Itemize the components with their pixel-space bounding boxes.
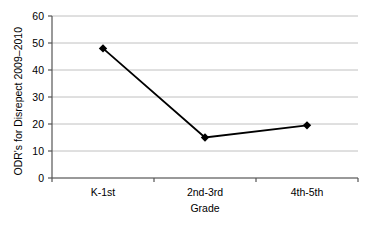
gridlines	[52, 16, 358, 178]
x-tick-label: K-1st	[52, 187, 154, 198]
x-tick-label: 2nd-3rd	[154, 187, 256, 198]
y-tick-label: 10	[4, 146, 44, 157]
y-axis-title: ODR's for Disrepect 2009–2010	[13, 11, 24, 191]
y-tick-label: 40	[4, 65, 44, 76]
x-axis-title: Grade	[52, 203, 358, 214]
y-tick-label: 30	[4, 92, 44, 103]
y-tick-label: 0	[4, 173, 44, 184]
y-tick-label: 60	[4, 11, 44, 22]
x-axis-ticks	[52, 178, 358, 182]
y-tick-label: 50	[4, 38, 44, 49]
data-markers	[99, 44, 311, 142]
line-chart: 0102030405060 K-1st2nd-3rd4th-5th ODR's …	[0, 0, 372, 225]
y-tick-label: 20	[4, 119, 44, 130]
x-tick-label: 4th-5th	[256, 187, 358, 198]
data-point-marker	[303, 121, 311, 129]
